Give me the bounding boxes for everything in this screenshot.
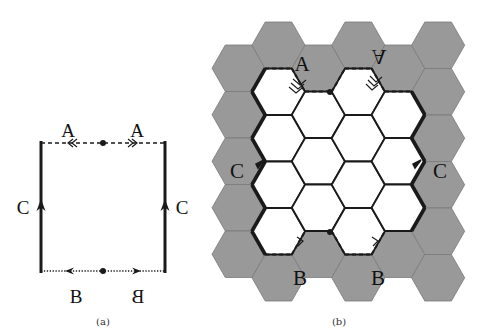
- label-c-right: C: [176, 197, 189, 218]
- label-b-left: B: [70, 286, 83, 307]
- midpoint-dot-bottom: [327, 229, 333, 235]
- label-a: A: [294, 52, 310, 76]
- label-c-left: C: [17, 197, 30, 218]
- label-b-right: B: [371, 266, 385, 290]
- label-b-right-mirrored: B: [132, 286, 145, 307]
- arrow-right-icon: [132, 268, 141, 275]
- label-c-left: C: [230, 159, 244, 183]
- midpoint-dot-top: [327, 89, 333, 95]
- label-a-inverted: A: [371, 45, 387, 69]
- midpoint-dot-top: [100, 140, 106, 146]
- hex-grid: [212, 22, 465, 301]
- caption-b: (b): [332, 316, 346, 327]
- figure: A A C C B B (a) A: [0, 0, 477, 335]
- caption-a: (a): [96, 316, 110, 327]
- panel-b-hexagonal-lattice: A A C C B B (b): [212, 22, 465, 327]
- label-c-right: C: [433, 159, 447, 183]
- midpoint-dot-bottom: [100, 268, 106, 274]
- label-a-right: A: [130, 120, 144, 141]
- arrow-left-icon: [65, 268, 74, 275]
- panel-a-square-identification: A A C C B B (a): [17, 120, 189, 327]
- label-b-left: B: [293, 266, 307, 290]
- label-a-left: A: [61, 120, 75, 141]
